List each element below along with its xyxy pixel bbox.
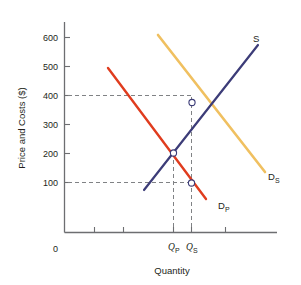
y-tick-label-300: 300 (43, 120, 58, 130)
curves (108, 35, 265, 199)
axes (65, 22, 278, 233)
supply-curve-label: S (253, 33, 259, 44)
y-tick-label-200: 200 (43, 149, 58, 159)
marker-private-demand-at-qs (188, 180, 194, 186)
origin-label: 0 (53, 244, 58, 254)
y-axis-ticks (65, 38, 71, 183)
x-axis-tick-labels: Q P Q S (168, 242, 198, 254)
guide-lines (68, 96, 192, 230)
supply-demand-chart: 600 500 400 300 200 100 0 (0, 0, 301, 285)
x-tick-label-qp-sub: P (175, 247, 180, 254)
y-tick-label-400: 400 (43, 91, 58, 101)
chart-container: 600 500 400 300 200 100 0 (0, 0, 301, 285)
x-tick-label-qp-main: Q (168, 242, 175, 252)
x-tick-label-qs-sub: S (193, 247, 198, 254)
demand-social-curve-label-sub: S (275, 177, 280, 184)
supply-curve (144, 45, 258, 190)
demand-private-curve-label: D (218, 200, 225, 211)
demand-social-curve-label: D (268, 171, 275, 182)
y-tick-label-100: 100 (43, 178, 58, 188)
x-tick-label-qs-main: Q (186, 242, 193, 252)
demand-private-curve-label-sub: P (225, 206, 230, 213)
y-axis-tick-labels: 600 500 400 300 200 100 0 (43, 33, 58, 254)
x-axis-ticks (95, 227, 226, 233)
marker-equilibrium-social (189, 99, 195, 105)
marker-equilibrium-private (170, 150, 176, 156)
y-tick-label-600: 600 (43, 33, 58, 43)
y-axis-title: Price and Costs ($) (16, 87, 27, 168)
x-axis-title: Quantity (154, 265, 190, 276)
y-tick-label-500: 500 (43, 62, 58, 72)
